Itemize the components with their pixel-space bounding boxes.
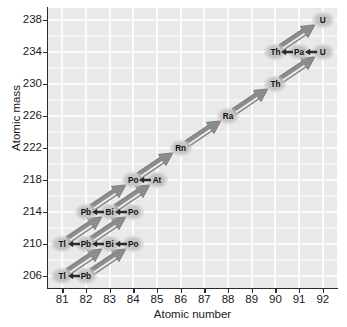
beta-decay-arrow (281, 49, 293, 56)
gridline-horizontal (48, 19, 337, 21)
x-tick-label-90: 90 (262, 293, 288, 305)
y-tick-mark (43, 276, 48, 277)
y-tick-label-210: 210 (14, 238, 42, 249)
gridline-horizontal-minor (48, 99, 337, 101)
nuclide-label-Pb-206: Pb (79, 271, 93, 282)
y-tick-label-206: 206 (14, 270, 42, 281)
x-tick-mark (323, 288, 324, 293)
nuclide-label-Po-210: Po (126, 239, 140, 250)
y-tick-mark (43, 116, 48, 117)
beta-decay-arrow (68, 273, 80, 280)
x-tick-label-85: 85 (144, 293, 170, 305)
gridline-horizontal-minor (48, 195, 337, 197)
y-tick-mark (43, 20, 48, 21)
nuclide-label-Bi-214: Bi (103, 207, 115, 218)
y-axis-title: Atomic mass (10, 68, 22, 168)
beta-decay-arrow (139, 177, 151, 184)
x-tick-mark (62, 288, 63, 293)
x-tick-mark (252, 288, 253, 293)
nuclide-label-At-218: At (151, 175, 164, 186)
beta-decay-arrow (92, 241, 104, 248)
y-tick-label-214: 214 (14, 206, 42, 217)
x-tick-label-92: 92 (310, 293, 336, 305)
y-tick-mark (43, 244, 48, 245)
x-tick-mark (299, 288, 300, 293)
x-tick-label-82: 82 (73, 293, 99, 305)
decay-chain-figure: 206210214218222226230234238 818283848586… (0, 0, 347, 327)
nuclide-label-Bi-210: Bi (103, 239, 115, 250)
gridline-horizontal-minor (48, 163, 337, 165)
x-tick-mark (204, 288, 205, 293)
x-axis-title: Atomic number (48, 308, 337, 320)
y-tick-label-234: 234 (14, 46, 42, 57)
x-tick-mark (181, 288, 182, 293)
x-tick-label-88: 88 (215, 293, 241, 305)
y-tick-mark (43, 180, 48, 181)
y-tick-mark (43, 148, 48, 149)
y-tick-mark (43, 52, 48, 53)
x-tick-label-83: 83 (97, 293, 123, 305)
nuclide-label-U-238: U (318, 15, 328, 26)
x-tick-label-89: 89 (239, 293, 265, 305)
x-tick-label-86: 86 (168, 293, 194, 305)
nuclide-label-Rn-222: Rn (173, 143, 188, 154)
nuclide-label-Th-230: Th (268, 79, 282, 90)
nuclide-label-Tl-206: Tl (57, 271, 68, 282)
x-tick-mark (157, 288, 158, 293)
x-tick-label-84: 84 (120, 293, 146, 305)
x-tick-mark (133, 288, 134, 293)
x-tick-label-87: 87 (191, 293, 217, 305)
y-tick-label-218: 218 (14, 174, 42, 185)
x-tick-mark (275, 288, 276, 293)
beta-decay-arrow (305, 49, 317, 56)
x-tick-label-81: 81 (49, 293, 75, 305)
beta-decay-arrow (115, 209, 127, 216)
nuclide-label-Ra-226: Ra (221, 111, 235, 122)
gridline-horizontal (48, 83, 337, 85)
nuclide-label-U-234: U (318, 47, 328, 58)
y-tick-label-238: 238 (14, 14, 42, 25)
gridline-horizontal (48, 115, 337, 117)
x-tick-mark (110, 288, 111, 293)
beta-decay-arrow (92, 209, 104, 216)
x-tick-label-91: 91 (286, 293, 312, 305)
x-tick-mark (86, 288, 87, 293)
nuclide-label-Po-214: Po (126, 207, 140, 218)
gridline-horizontal (48, 179, 337, 181)
y-tick-mark (43, 84, 48, 85)
nuclide-label-Tl-210: Tl (57, 239, 68, 250)
beta-decay-arrow (115, 241, 127, 248)
x-tick-mark (228, 288, 229, 293)
x-axis-line (47, 288, 338, 289)
beta-decay-arrow (68, 241, 80, 248)
y-tick-mark (43, 212, 48, 213)
